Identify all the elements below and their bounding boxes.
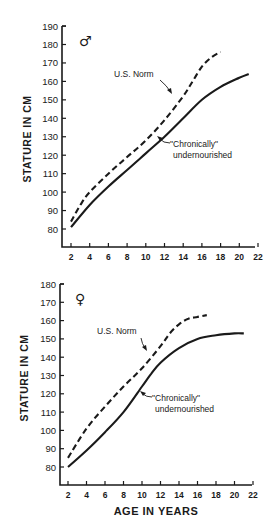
x-tick-label: 14 — [178, 252, 188, 262]
y-tick-label: 150 — [42, 94, 58, 105]
growth-charts: 8090100110120130140150160170180190 24681… — [0, 0, 280, 529]
x-tick-label: 16 — [197, 252, 207, 262]
x-tick-label: 4 — [87, 252, 92, 262]
x-tick-label: 10 — [141, 252, 151, 262]
y-tick-label: 90 — [47, 205, 58, 216]
y-tick-label: 160 — [40, 315, 56, 326]
male-chronically-label: "Chronically" — [170, 139, 218, 149]
y-tick-label: 120 — [40, 388, 56, 399]
female-symbol-icon: ♀ — [75, 291, 85, 307]
y-tick-label: 150 — [40, 333, 56, 344]
male-stature-chart: 8090100110120130140150160170180190 24681… — [21, 21, 263, 262]
y-tick-label: 110 — [43, 168, 58, 179]
y-tick-label: 80 — [47, 224, 58, 235]
female-series — [68, 315, 244, 467]
x-tick-label: 16 — [193, 490, 203, 500]
y-tick-label: 170 — [40, 297, 56, 308]
x-tick-label: 22 — [248, 490, 258, 500]
y-tick-label: 180 — [40, 279, 56, 290]
x-tick-label: 6 — [103, 490, 108, 500]
y-tick-label: 190 — [42, 21, 58, 32]
y-tick-label: 140 — [40, 352, 56, 363]
y-tick-label: 140 — [42, 113, 58, 124]
x-tick-label: 10 — [137, 490, 147, 500]
x-tick-label: 2 — [66, 490, 71, 500]
y-tick-label: 130 — [40, 370, 56, 381]
female-y-axis-title: STATURE IN CM — [18, 334, 30, 421]
female-us-norm-label: U.S. Norm — [97, 326, 137, 336]
female-undernourished-label: undernourished — [155, 404, 214, 414]
y-tick-label: 80 — [45, 462, 56, 473]
us-norm-line — [68, 315, 207, 458]
male-us-norm-arrowhead-icon — [167, 88, 172, 94]
x-tick-label: 2 — [69, 252, 74, 262]
x-tick-label: 8 — [121, 490, 126, 500]
x-tick-label: 18 — [216, 252, 226, 262]
female-axis-lines — [60, 284, 252, 485]
y-tick-label: 110 — [41, 407, 56, 418]
x-tick-label: 18 — [211, 490, 221, 500]
x-axis-title: AGE IN YEARS — [114, 505, 199, 517]
y-tick-label: 180 — [42, 39, 58, 50]
female-us-norm-arrowhead-icon — [142, 345, 147, 351]
male-x-ticks: 246810121416182022 — [69, 243, 263, 262]
y-tick-label: 170 — [42, 57, 58, 68]
x-tick-label: 22 — [253, 252, 263, 262]
x-tick-label: 4 — [84, 490, 89, 500]
male-symbol-icon: ♂ — [79, 33, 92, 49]
y-tick-label: 90 — [45, 443, 56, 454]
female-stature-chart: 8090100110120130140150160170180 24681012… — [18, 279, 258, 518]
x-tick-label: 12 — [156, 490, 166, 500]
female-axes — [60, 284, 252, 485]
female-x-ticks: 246810121416182022 — [66, 481, 258, 500]
male-y-axis-title: STATURE IN CM — [21, 95, 33, 182]
x-tick-label: 20 — [230, 490, 240, 500]
y-tick-label: 160 — [42, 76, 58, 87]
x-tick-label: 12 — [160, 252, 170, 262]
male-undernourished-label: undernourished — [173, 150, 232, 160]
x-tick-label: 8 — [125, 252, 130, 262]
x-tick-label: 6 — [106, 252, 111, 262]
male-us-norm-label: U.S. Norm — [114, 69, 154, 79]
x-tick-label: 20 — [235, 252, 245, 262]
x-tick-label: 14 — [174, 490, 184, 500]
y-tick-label: 130 — [42, 131, 58, 142]
female-chronically-label: "Chronically" — [152, 393, 200, 403]
y-tick-label: 100 — [40, 425, 56, 436]
y-tick-label: 120 — [42, 150, 58, 161]
y-tick-label: 100 — [42, 187, 58, 198]
